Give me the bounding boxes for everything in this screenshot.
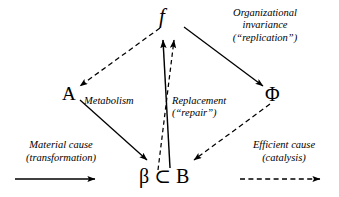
legend-solid-arrow-icon: [15, 173, 107, 185]
diagram-canvas: f A Φ β ⊂ B Metabolism Replacement (“rep…: [0, 0, 339, 197]
label-replacement-line2: (“repair”): [172, 107, 217, 118]
label-organizational-line1: Organizational: [233, 7, 297, 18]
label-metabolism: Metabolism: [84, 95, 134, 107]
legend-dashed-arrow-icon: [240, 173, 332, 185]
legend-efficient-cause: Efficient cause (catalysis): [232, 139, 336, 164]
legend-efficient-cause-line2: (catalysis): [232, 152, 336, 165]
label-organizational-line3: (“replication”): [233, 32, 297, 43]
edge-B-to-f-solid: [163, 40, 170, 168]
edge-f-to-A: [80, 28, 160, 86]
label-organizational-invariance: Organizational invariance (“replication”…: [202, 7, 328, 44]
node-beta-subset-b: β ⊂ B: [139, 166, 189, 186]
label-organizational-line2: invariance: [243, 19, 288, 30]
legend-material-cause-line2: (transformation): [6, 152, 116, 165]
node-f: f: [159, 6, 165, 27]
label-replacement: Replacement (“repair”): [172, 95, 226, 120]
legend-material-cause: Material cause (transformation): [6, 139, 116, 164]
legend-material-cause-line1: Material cause: [6, 139, 116, 152]
label-replacement-line1: Replacement: [172, 95, 226, 106]
legend-efficient-cause-line1: Efficient cause: [232, 139, 336, 152]
node-phi: Φ: [265, 84, 280, 104]
node-a: A: [62, 84, 76, 103]
